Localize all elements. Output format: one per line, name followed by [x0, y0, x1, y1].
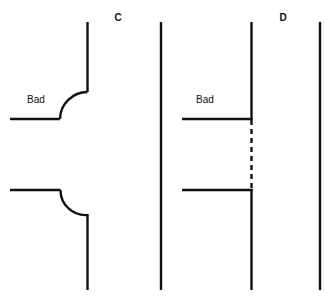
- bad-annotation-d: Bad: [196, 94, 214, 105]
- diagram-canvas: C D Bad Bad: [0, 0, 324, 306]
- junction-detail-drawing: C D Bad Bad: [0, 0, 324, 306]
- bad-annotation-c: Bad: [27, 94, 45, 105]
- panel-label-d: D: [279, 12, 286, 23]
- panel-label-c: C: [114, 12, 121, 23]
- panel-c-upper-fillet-arc: [60, 92, 88, 119]
- panel-c-lower-fillet-arc: [60, 190, 87, 215]
